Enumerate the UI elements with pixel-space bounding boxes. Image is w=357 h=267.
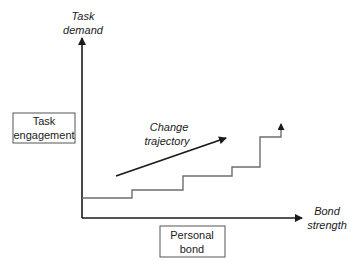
trajectory-label-line1: Change xyxy=(150,121,189,133)
task-engagement-line2: engagement xyxy=(13,129,74,141)
trajectory-label-line2: trajectory xyxy=(144,135,191,147)
personal-bond-line1: Personal xyxy=(170,229,213,241)
personal-bond-line2: bond xyxy=(180,243,204,255)
diagram-canvas: Task demand Bond strength Change traject… xyxy=(0,0,357,267)
y-axis-label-line1: Task xyxy=(72,10,95,22)
task-engagement-line1: Task xyxy=(33,115,56,127)
x-axis-label-line2: strength xyxy=(307,219,347,231)
personal-bond-box: Personal bond xyxy=(160,226,225,257)
x-axis-label-line1: Bond xyxy=(314,205,341,217)
y-axis-label-line2: demand xyxy=(63,24,104,36)
task-engagement-box: Task engagement xyxy=(13,113,75,143)
